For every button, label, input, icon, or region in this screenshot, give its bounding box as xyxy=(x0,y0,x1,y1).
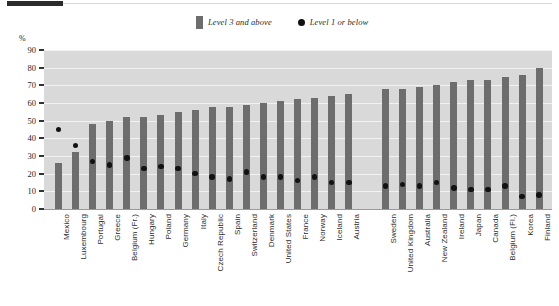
x-axis-category-label: Luxembourg xyxy=(79,214,88,259)
bar xyxy=(328,96,335,209)
legend-dot-marker-icon xyxy=(298,19,305,26)
legend-label-level-3-and-above: Level 3 and above xyxy=(208,17,272,27)
y-axis-tick-label: 60 xyxy=(28,98,37,108)
x-axis-category-label: Czech Republic xyxy=(216,214,225,271)
y-axis-tick-label: 30 xyxy=(28,151,37,161)
data-point-dot xyxy=(468,187,474,193)
bar xyxy=(192,110,199,209)
x-axis-baseline xyxy=(44,209,552,210)
x-axis-category-label: Belgium (Fr.) xyxy=(130,214,139,261)
bar xyxy=(243,105,250,209)
x-axis-category-label: Belgium (Fl.) xyxy=(508,214,517,261)
x-axis-category-label: Australia xyxy=(423,214,432,246)
x-axis-category-label: Portugal xyxy=(96,214,105,245)
y-axis-tick-label: 20 xyxy=(28,169,37,179)
data-point-dot xyxy=(124,155,130,161)
data-point-dot xyxy=(141,166,147,172)
x-axis-category-label: Japan xyxy=(474,214,483,236)
bar xyxy=(89,124,96,209)
x-axis-category-label: Norway xyxy=(318,214,327,242)
x-axis-category-label: Italy xyxy=(199,214,208,229)
gridline xyxy=(44,50,552,51)
x-axis-category-label: Greece xyxy=(113,214,122,241)
data-point-dot xyxy=(383,183,389,189)
y-axis-tick-mark xyxy=(39,208,44,210)
x-axis-category-label: Austria xyxy=(352,214,361,240)
data-point-dot xyxy=(502,183,508,189)
bar xyxy=(55,163,62,209)
y-axis-tick: 60 xyxy=(2,98,44,108)
x-axis-category-label: Hungary xyxy=(147,214,156,245)
y-axis-tick-label: 80 xyxy=(28,63,37,73)
bar xyxy=(260,103,267,209)
header-rule-light xyxy=(63,3,552,4)
y-axis-tick-label: 50 xyxy=(28,116,37,126)
y-axis-tick-mark xyxy=(39,84,44,86)
y-axis-tick-label: 10 xyxy=(28,186,37,196)
x-axis-category-label: Finland xyxy=(543,214,552,241)
x-axis-category-label: Iceland xyxy=(335,214,344,241)
y-axis-tick: 70 xyxy=(2,80,44,90)
data-point-dot xyxy=(278,174,284,180)
data-point-dot xyxy=(158,164,164,170)
y-axis-tick-mark xyxy=(39,67,44,69)
y-axis-tick-label: 90 xyxy=(28,45,37,55)
data-point-dot xyxy=(175,166,181,172)
data-point-dot xyxy=(244,169,250,175)
y-axis-tick-label: 0 xyxy=(32,204,36,214)
chart-legend: Level 3 and above Level 1 or below xyxy=(196,14,426,30)
x-axis-category-label: France xyxy=(301,214,310,240)
x-axis-category-label: Germany xyxy=(181,214,190,248)
y-axis-tick: 90 xyxy=(2,45,44,55)
data-point-dot xyxy=(346,180,352,186)
y-axis-tick-mark xyxy=(39,102,44,104)
bar xyxy=(536,68,543,209)
y-axis-tick: 20 xyxy=(2,169,44,179)
y-axis-tick-mark xyxy=(39,155,44,157)
legend-item-level-1-or-below: Level 1 or below xyxy=(298,17,369,27)
data-point-dot xyxy=(227,176,233,182)
bar xyxy=(72,152,79,209)
data-point-dot xyxy=(261,174,267,180)
bar xyxy=(277,101,284,209)
bar xyxy=(311,98,318,209)
y-axis-tick-label: 70 xyxy=(28,80,37,90)
x-axis-category-label: Mexico xyxy=(62,214,71,240)
bar xyxy=(519,75,526,209)
y-axis-tick: 30 xyxy=(2,151,44,161)
data-point-dot xyxy=(107,162,113,168)
y-axis-tick-mark xyxy=(39,120,44,122)
bar xyxy=(416,87,423,209)
bar xyxy=(294,99,301,209)
y-axis-tick: 40 xyxy=(2,133,44,143)
y-axis-tick-mark xyxy=(39,173,44,175)
x-axis-category-label: Sweden xyxy=(389,214,398,244)
data-point-dot xyxy=(485,187,491,193)
gridline xyxy=(44,68,552,69)
legend-item-level-3-and-above: Level 3 and above xyxy=(196,16,272,29)
x-axis-category-label: United States xyxy=(284,214,293,263)
bar xyxy=(140,117,147,209)
y-axis-tick-label: 40 xyxy=(28,133,37,143)
legend-bar-swatch-icon xyxy=(196,16,203,29)
bar xyxy=(157,115,164,209)
x-axis-category-label: Spain xyxy=(233,214,242,235)
x-axis-category-label: Ireland xyxy=(457,214,466,239)
data-point-dot xyxy=(536,192,542,198)
x-axis-category-label: Poland xyxy=(164,214,173,240)
data-point-dot xyxy=(451,185,457,191)
x-axis-category-label: Denmark xyxy=(267,214,276,247)
bar xyxy=(209,107,216,209)
x-axis-category-label: Korea xyxy=(526,214,535,236)
bar xyxy=(433,85,440,209)
bar xyxy=(175,112,182,209)
gridline xyxy=(44,85,552,86)
bar xyxy=(502,77,509,210)
y-axis-tick: 80 xyxy=(2,63,44,73)
y-axis-tick-mark xyxy=(39,190,44,192)
y-axis-tick: 0 xyxy=(2,204,44,214)
legend-label-level-1-or-below: Level 1 or below xyxy=(310,17,369,27)
bar xyxy=(123,117,130,209)
bar xyxy=(399,89,406,209)
y-axis: 0102030405060708090 xyxy=(0,0,44,306)
